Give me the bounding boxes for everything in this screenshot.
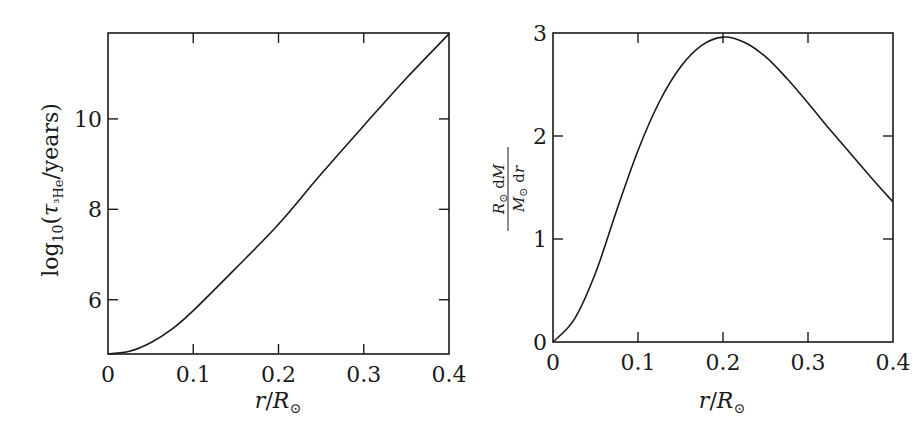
left-y-axis-label: log10(τ³He/years) [38, 103, 66, 277]
y-tick-label: 8 [88, 197, 102, 222]
y-tick-label: 6 [88, 288, 102, 313]
right-x-tick-labels: 00.10.20.30.4 [546, 350, 911, 375]
y-tick-label: 1 [533, 227, 547, 252]
left-x-tick-labels: 00.10.20.30.4 [101, 362, 467, 387]
y-tick-label: 2 [533, 124, 547, 149]
right-chart-panel: 00.10.20.30.4 0123 r/R⊙ R⊙ dM M⊙ dr [490, 21, 911, 416]
left-data-line [108, 34, 449, 354]
y-tick-label: 0 [533, 330, 547, 355]
right-ticks [553, 33, 893, 342]
svg-text:R⊙ dM: R⊙ dM [490, 163, 510, 215]
y-tick-label: 10 [74, 107, 102, 132]
left-y-tick-labels: 6810 [74, 107, 102, 313]
right-data-line [553, 37, 893, 342]
x-tick-label: 0.2 [706, 350, 741, 375]
left-x-axis-label: r/R⊙ [255, 388, 301, 416]
right-y-axis-label: R⊙ dM M⊙ dr [490, 147, 530, 231]
right-x-axis-label: r/R⊙ [699, 388, 745, 416]
right-plot-frame [553, 33, 893, 342]
left-ticks [108, 33, 449, 354]
x-tick-label: 0.1 [621, 350, 656, 375]
svg-text:M⊙ dr: M⊙ dr [510, 165, 530, 213]
chart-figure: 00.10.20.30.4 6810 r/R⊙ log10(τ³He/years… [0, 0, 917, 422]
y-tick-label: 3 [533, 21, 547, 46]
left-chart-panel: 00.10.20.30.4 6810 r/R⊙ log10(τ³He/years… [38, 33, 467, 416]
right-y-tick-labels: 0123 [533, 21, 547, 355]
x-tick-label: 0.4 [876, 350, 911, 375]
x-tick-label: 0.1 [176, 362, 211, 387]
x-tick-label: 0.4 [432, 362, 467, 387]
x-tick-label: 0.3 [791, 350, 826, 375]
x-tick-label: 0 [546, 350, 560, 375]
x-tick-label: 0 [101, 362, 115, 387]
x-tick-label: 0.3 [346, 362, 381, 387]
left-plot-frame [108, 33, 449, 354]
x-tick-label: 0.2 [261, 362, 296, 387]
